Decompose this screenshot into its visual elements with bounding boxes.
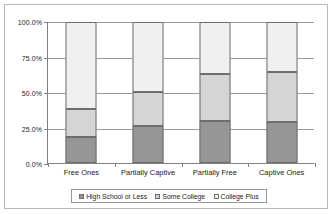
legend-item-some-college[interactable]: Some College: [155, 193, 205, 200]
bar-group-partially-captive: Partially Captive: [115, 22, 182, 163]
plot-area: 100.0% 75.0% 50.0% 25.0% 0.0% Free One: [47, 22, 314, 164]
bar-group-partially-free: Partially Free: [182, 22, 249, 163]
bar-segment-high-school-or-less[interactable]: [199, 121, 230, 163]
x-axis-label-free-ones: Free Ones: [64, 168, 99, 177]
bar-segment-some-college[interactable]: [133, 92, 164, 127]
y-axis-label-100: 100.0%: [18, 19, 42, 26]
legend-item-college-plus[interactable]: College Plus: [214, 193, 259, 200]
legend-label: High School or Less: [86, 193, 147, 200]
bar-segment-high-school-or-less[interactable]: [133, 126, 164, 163]
stacked-bar: [199, 22, 230, 163]
bar-segment-college-plus[interactable]: [199, 22, 230, 74]
legend-swatch-icon: [155, 194, 160, 199]
legend-label: College Plus: [221, 193, 259, 200]
bar-segment-college-plus[interactable]: [66, 22, 97, 109]
bar-segment-some-college[interactable]: [66, 109, 97, 136]
x-tick-mark-end: [315, 163, 316, 167]
y-axis-label-50: 50.0%: [22, 90, 42, 97]
stacked-bar: [133, 22, 164, 163]
bar-segment-some-college[interactable]: [199, 74, 230, 121]
y-axis-label-75: 75.0%: [22, 54, 42, 61]
x-tick-mark: [182, 163, 183, 167]
x-tick-mark: [48, 163, 49, 167]
legend-swatch-icon: [214, 194, 219, 199]
bar-segment-some-college[interactable]: [266, 72, 297, 122]
chart-legend: High School or Less Some College College…: [71, 189, 267, 203]
bar-segment-college-plus[interactable]: [133, 22, 164, 92]
bar-segment-high-school-or-less[interactable]: [266, 122, 297, 163]
y-axis-label-0: 0.0%: [26, 161, 42, 168]
x-tick-mark: [115, 163, 116, 167]
x-tick-mark: [248, 163, 249, 167]
bar-group-captive-ones: Captive Ones: [248, 22, 315, 163]
stacked-bar: [66, 22, 97, 163]
legend-label: Some College: [162, 193, 205, 200]
stacked-bar: [266, 22, 297, 163]
y-axis-label-25: 25.0%: [22, 125, 42, 132]
legend-swatch-icon: [79, 194, 84, 199]
x-axis-label-captive-ones: Captive Ones: [259, 168, 304, 177]
x-axis-label-partially-captive: Partially Captive: [121, 168, 175, 177]
legend-item-high-school-or-less[interactable]: High School or Less: [79, 193, 147, 200]
bar-segment-college-plus[interactable]: [266, 22, 297, 72]
bar-group-free-ones: Free Ones: [48, 22, 115, 163]
bar-segment-high-school-or-less[interactable]: [66, 137, 97, 163]
x-axis-label-partially-free: Partially Free: [193, 168, 237, 177]
chart-frame: 100.0% 75.0% 50.0% 25.0% 0.0% Free One: [4, 4, 328, 209]
